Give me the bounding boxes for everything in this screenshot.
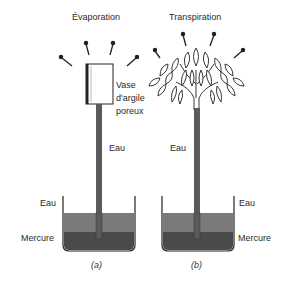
vase-label-line2: d'argile: [116, 93, 145, 104]
panel-a-drawing: [59, 41, 138, 251]
panel-b-caption: (b): [191, 260, 202, 270]
panel-a-tube-label: Eau: [109, 143, 125, 154]
panel-a-mercury-label: Mercure: [21, 233, 54, 244]
panel-b-title: Transpiration: [169, 12, 221, 23]
transpiration-arrows-icon: [153, 32, 244, 58]
vase-label-line1: Vase: [116, 80, 136, 91]
panel-b-water-label: Eau: [239, 198, 255, 209]
porous-clay-vase: [86, 64, 113, 104]
panel-a-title: Évaporation: [72, 12, 120, 23]
evaporation-arrows-icon: [59, 41, 138, 66]
panel-a-caption: (a): [91, 260, 102, 270]
panel-a-water-label: Eau: [40, 198, 56, 209]
diagram-canvas: [0, 0, 293, 291]
panel-b-tube-label: Eau: [170, 143, 186, 154]
panel-b-drawing: [149, 32, 245, 251]
tree-icon: [149, 48, 244, 110]
panel-b-mercury-label: Mercure: [238, 233, 271, 244]
vase-label-line3: poreux: [116, 106, 144, 117]
